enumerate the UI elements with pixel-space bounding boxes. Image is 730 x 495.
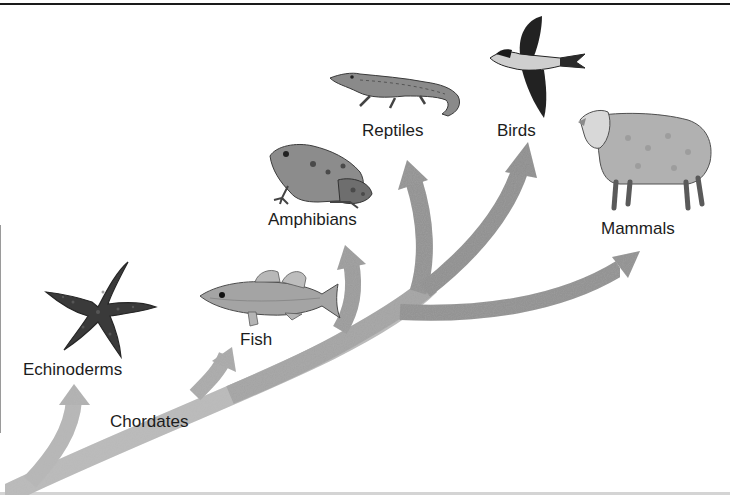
label-echinoderms: Echinoderms <box>23 361 122 378</box>
alligator-illustration <box>330 73 460 116</box>
amphibians-branch <box>340 262 353 330</box>
echinoderms-arrowhead <box>59 384 90 405</box>
bird-illustration <box>490 16 585 118</box>
label-mammals: Mammals <box>601 220 675 237</box>
label-amphibians: Amphibians <box>268 211 357 228</box>
label-birds: Birds <box>497 122 536 139</box>
label-fish: Fish <box>240 331 272 348</box>
label-chordates: Chordates <box>110 413 188 430</box>
birds-arrowhead <box>505 142 537 178</box>
birds-branch <box>425 170 520 290</box>
sheep-illustration <box>578 110 711 208</box>
reptiles-branch <box>414 182 424 292</box>
frog-illustration <box>270 144 372 208</box>
diagram-frame: Reptiles Birds Amphibians Mammals Fish E… <box>0 0 730 495</box>
amphibians-arrowhead <box>337 245 366 270</box>
label-reptiles: Reptiles <box>362 122 423 139</box>
trunk-arrow <box>5 285 430 495</box>
fish-illustration <box>200 270 340 326</box>
starfish-illustration <box>46 262 156 357</box>
